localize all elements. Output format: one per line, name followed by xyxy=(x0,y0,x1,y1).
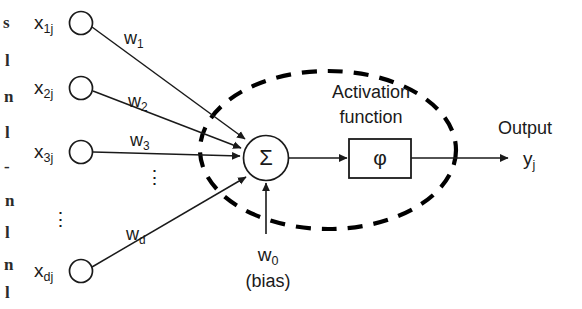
weight-label-w1: w1 xyxy=(124,29,144,47)
page-edge-fragment: l xyxy=(5,224,10,241)
page-edge-fragment: - xyxy=(4,158,10,175)
output-caption: Output xyxy=(498,119,552,137)
page-edge-fragment: n xyxy=(4,88,13,105)
page-edge-fragment: n xyxy=(5,192,14,209)
page-edge-fragment: l xyxy=(5,124,10,141)
connection-wd xyxy=(92,177,246,267)
activation-boundary-ellipse xyxy=(200,71,456,229)
connection-w3 xyxy=(93,152,240,156)
output-label-yj: yj xyxy=(523,149,535,168)
input-node-3 xyxy=(70,141,93,164)
input-label-xdj: xdj xyxy=(34,261,53,280)
weight-label-wd: wd xyxy=(126,225,146,243)
activation-symbol-phi: φ xyxy=(373,147,387,168)
ellipsis-weights: ⋮ xyxy=(145,175,164,180)
connection-w1 xyxy=(92,27,245,139)
weight-label-w3: w3 xyxy=(130,131,150,149)
page-edge-fragment: s xyxy=(3,14,10,31)
summation-symbol: Σ xyxy=(259,147,273,169)
diagram-canvas xyxy=(0,0,582,309)
activation-caption-line2: function xyxy=(339,108,402,126)
input-label-x1j: x1j xyxy=(34,13,53,32)
bias-label: w0 xyxy=(258,245,279,264)
input-node-4 xyxy=(70,260,93,283)
input-label-x2j: x2j xyxy=(34,78,53,97)
input-node-1 xyxy=(70,12,93,35)
page-edge-fragment: l xyxy=(5,284,10,301)
input-label-x3j: x3j xyxy=(34,142,53,161)
input-node-2 xyxy=(70,77,93,100)
bias-caption: (bias) xyxy=(245,272,290,290)
weight-label-w2: w2 xyxy=(128,92,148,110)
page-edge-fragment: l xyxy=(5,52,10,69)
activation-caption-line1: Activation xyxy=(332,83,410,101)
ellipsis-inputs: ⋮ xyxy=(51,217,70,222)
neuron-diagram: s l n l - n l n l x1j x2j x3j xdj w1 w2 … xyxy=(0,0,582,309)
page-edge-fragment: n xyxy=(4,256,13,273)
